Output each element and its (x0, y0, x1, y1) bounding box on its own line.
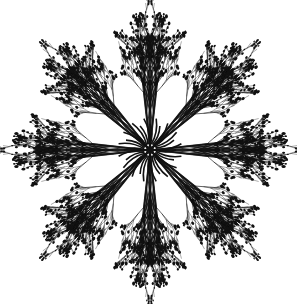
image-canvas (0, 0, 297, 304)
branch-mandala-image (0, 0, 297, 304)
